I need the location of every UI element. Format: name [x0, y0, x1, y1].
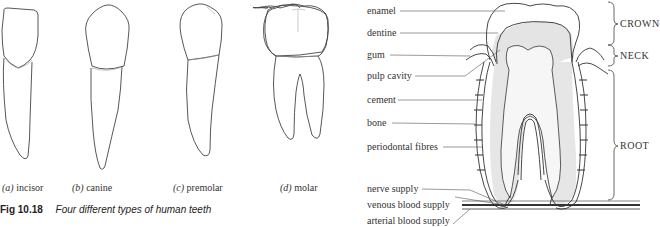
tooth-name: premolar	[187, 182, 223, 193]
tooth-name: incisor	[16, 182, 43, 193]
tooth-label-incisor: (a) incisor	[2, 182, 43, 193]
figure-number: Fig 10.18	[0, 204, 43, 215]
tooth-label-canine: (b) canine	[72, 182, 112, 193]
tooth-label-molar: (d) molar	[280, 182, 318, 193]
figure-caption: Fig 10.18 Four different types of human …	[0, 204, 211, 215]
label-cement: cement	[367, 94, 396, 105]
tooth-name: canine	[86, 182, 112, 193]
region-neck: NECK	[620, 50, 649, 61]
tooth-letter: (b)	[72, 182, 84, 193]
label-dentine: dentine	[367, 27, 396, 38]
label-enamel: enamel	[367, 5, 396, 16]
label-periodontal-fibres: periodontal fibres	[367, 141, 438, 152]
region-root: ROOT	[620, 140, 649, 151]
label-venous-blood-supply: venous blood supply	[367, 199, 450, 210]
label-nerve-supply: nerve supply	[367, 183, 418, 194]
label-arterial-blood-supply: arterial blood supply	[367, 215, 450, 226]
figure-caption-text: Four different types of human teeth	[56, 204, 212, 215]
tooth-name: molar	[294, 182, 317, 193]
label-pulp-cavity: pulp cavity	[367, 70, 412, 81]
teeth-outlines-drawing	[0, 0, 330, 200]
tooth-label-premolar: (c) premolar	[173, 182, 223, 193]
label-gum: gum	[367, 49, 385, 60]
tooth-letter: (d)	[280, 182, 292, 193]
region-crown: CROWN	[620, 18, 660, 29]
tooth-letter: (c)	[173, 182, 184, 193]
tooth-letter: (a)	[2, 182, 14, 193]
label-bone: bone	[367, 117, 386, 128]
